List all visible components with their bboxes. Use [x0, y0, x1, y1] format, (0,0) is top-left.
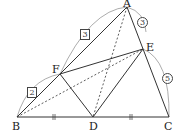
- point-label-d: D: [89, 121, 98, 132]
- point-label-e: E: [146, 42, 154, 53]
- segment-de: [93, 49, 143, 117]
- ratio-label-fb: 2: [27, 87, 37, 98]
- segment-be-dashed: [17, 49, 143, 117]
- point-label-a: A: [123, 0, 131, 9]
- point-label-f: F: [52, 64, 60, 75]
- point-label-b: B: [12, 121, 20, 132]
- diagram-canvas: [0, 0, 178, 140]
- segment-ab: [17, 7, 127, 117]
- segment-fd: [60, 74, 93, 117]
- geometry-diagram: A B C D E F 3 2 3 5: [0, 0, 178, 140]
- ratio-label-af: 3: [80, 29, 90, 40]
- ratio-label-ae: 3: [137, 17, 148, 28]
- ratio-label-ec: 5: [162, 73, 173, 84]
- point-label-c: C: [164, 121, 172, 132]
